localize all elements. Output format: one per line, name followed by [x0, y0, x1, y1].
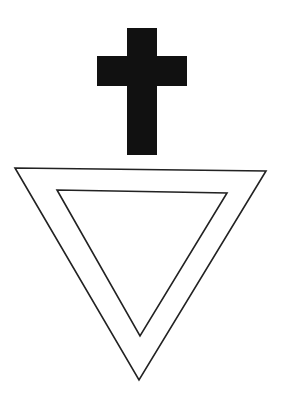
- cross-icon: [97, 28, 187, 155]
- triangle-down-outline-icon: [15, 168, 266, 380]
- cross-vertical-bar: [127, 28, 157, 155]
- symbol-figure: [0, 0, 282, 396]
- cross-horizontal-bar: [97, 56, 187, 86]
- inner-triangle: [57, 190, 227, 336]
- outer-triangle: [15, 168, 266, 380]
